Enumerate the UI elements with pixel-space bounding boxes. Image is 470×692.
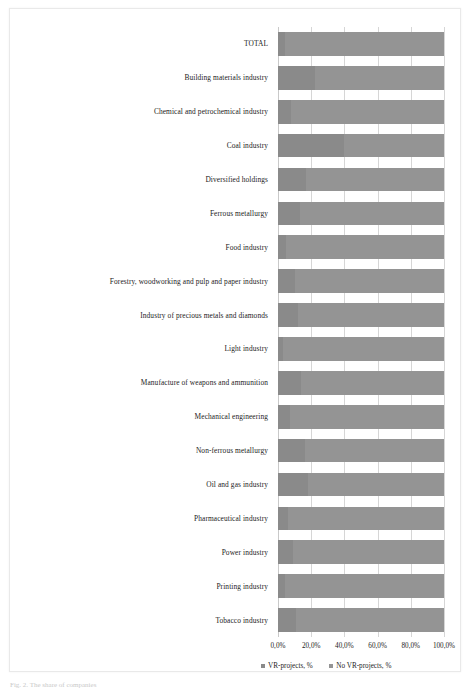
bar-row[interactable] [278, 202, 444, 226]
gridline [444, 27, 445, 637]
category-label: TOTAL [244, 39, 268, 48]
bar-segment[interactable] [278, 32, 285, 56]
bar-segment[interactable] [278, 540, 293, 564]
bar-segment[interactable] [300, 202, 444, 226]
category-label: Coal industry [227, 141, 268, 150]
bar-segment[interactable] [278, 405, 290, 429]
bar-row[interactable] [278, 303, 444, 327]
bar-row[interactable] [278, 100, 444, 124]
bar-row[interactable] [278, 405, 444, 429]
bar-rows [278, 27, 444, 637]
category-label: Non-ferrous metallurgy [196, 446, 268, 455]
bar-segment[interactable] [296, 608, 444, 632]
bar-segment[interactable] [308, 473, 444, 497]
bar-segment[interactable] [278, 269, 295, 293]
bar-segment[interactable] [278, 100, 291, 124]
bar-segment[interactable] [290, 405, 444, 429]
category-label: Ferrous metallurgy [210, 209, 268, 218]
bar-segment[interactable] [278, 168, 306, 192]
bar-row[interactable] [278, 269, 444, 293]
category-axis-labels: TOTALBuilding materials industryChemical… [10, 27, 274, 637]
bar-segment[interactable] [285, 574, 444, 598]
value-axis-ticks: 0,0%20,0%40,0%60,0%80,0%100,0% [278, 641, 444, 653]
legend-item[interactable]: No VR-projects, % [329, 661, 392, 671]
page-canvas: TOTALBuilding materials industryChemical… [0, 0, 470, 692]
category-label: Oil and gas industry [206, 480, 268, 489]
bar-row[interactable] [278, 66, 444, 90]
category-label: Industry of precious metals and diamonds [140, 311, 268, 320]
bar-row[interactable] [278, 371, 444, 395]
bar-segment[interactable] [291, 100, 444, 124]
bar-segment[interactable] [344, 134, 444, 158]
axis-tick-label: 80,0% [402, 641, 421, 651]
bar-segment[interactable] [315, 66, 444, 90]
category-label: Power industry [222, 548, 268, 557]
bar-segment[interactable] [278, 507, 288, 531]
bar-segment[interactable] [278, 303, 298, 327]
bar-segment[interactable] [298, 303, 444, 327]
axis-tick-label: 0,0% [271, 641, 286, 651]
bar-segment[interactable] [288, 507, 444, 531]
legend-item[interactable]: VR-projects, % [261, 661, 313, 671]
category-label: Printing industry [216, 582, 268, 591]
axis-tick-label: 60,0% [368, 641, 387, 651]
scanned-page-sheet: TOTALBuilding materials industryChemical… [9, 8, 461, 672]
bar-segment[interactable] [278, 439, 305, 463]
plot-area [278, 27, 444, 637]
bar-segment[interactable] [278, 66, 315, 90]
axis-tick-label: 100,0% [433, 641, 455, 651]
bar-row[interactable] [278, 540, 444, 564]
bar-row[interactable] [278, 168, 444, 192]
bar-row[interactable] [278, 32, 444, 56]
legend-swatch-icon [329, 664, 334, 669]
bar-segment[interactable] [278, 202, 300, 226]
bar-segment[interactable] [285, 32, 444, 56]
chart-legend: VR-projects, %No VR-projects, % [206, 659, 446, 673]
bar-segment[interactable] [295, 269, 444, 293]
category-label: Food industry [225, 243, 268, 252]
category-label: Pharmaceutical industry [194, 514, 268, 523]
category-label: Manufacture of weapons and ammunition [141, 378, 268, 387]
bar-segment[interactable] [306, 168, 444, 192]
axis-tick-label: 40,0% [335, 641, 354, 651]
legend-label: No VR-projects, % [336, 661, 391, 671]
bar-segment[interactable] [278, 608, 296, 632]
bar-segment[interactable] [286, 235, 444, 259]
category-label: Building materials industry [184, 73, 268, 82]
bar-row[interactable] [278, 473, 444, 497]
bar-row[interactable] [278, 337, 444, 361]
bar-segment[interactable] [293, 540, 444, 564]
figure-caption: Fig. 2. The share of companies [10, 681, 96, 690]
bar-row[interactable] [278, 608, 444, 632]
bar-segment[interactable] [278, 371, 301, 395]
bar-segment[interactable] [301, 371, 444, 395]
legend-swatch-icon [261, 664, 266, 669]
bar-segment[interactable] [283, 337, 444, 361]
category-label: Chemical and petrochemical industry [154, 107, 268, 116]
category-label: Forestry, woodworking and pulp and paper… [110, 277, 268, 286]
category-label: Light industry [225, 344, 269, 353]
stacked-bar-chart: TOTALBuilding materials industryChemical… [10, 9, 460, 671]
bar-segment[interactable] [278, 574, 285, 598]
bar-row[interactable] [278, 235, 444, 259]
bar-row[interactable] [278, 134, 444, 158]
bar-segment[interactable] [305, 439, 444, 463]
bar-row[interactable] [278, 574, 444, 598]
bar-row[interactable] [278, 507, 444, 531]
category-label: Diversified holdings [205, 175, 268, 184]
category-label: Tobacco industry [215, 616, 268, 625]
bar-segment[interactable] [278, 235, 286, 259]
bar-segment[interactable] [278, 134, 344, 158]
legend-label: VR-projects, % [268, 661, 313, 671]
category-label: Mechanical engineering [195, 412, 268, 421]
bar-row[interactable] [278, 439, 444, 463]
bar-segment[interactable] [278, 473, 308, 497]
axis-tick-label: 20,0% [302, 641, 321, 651]
